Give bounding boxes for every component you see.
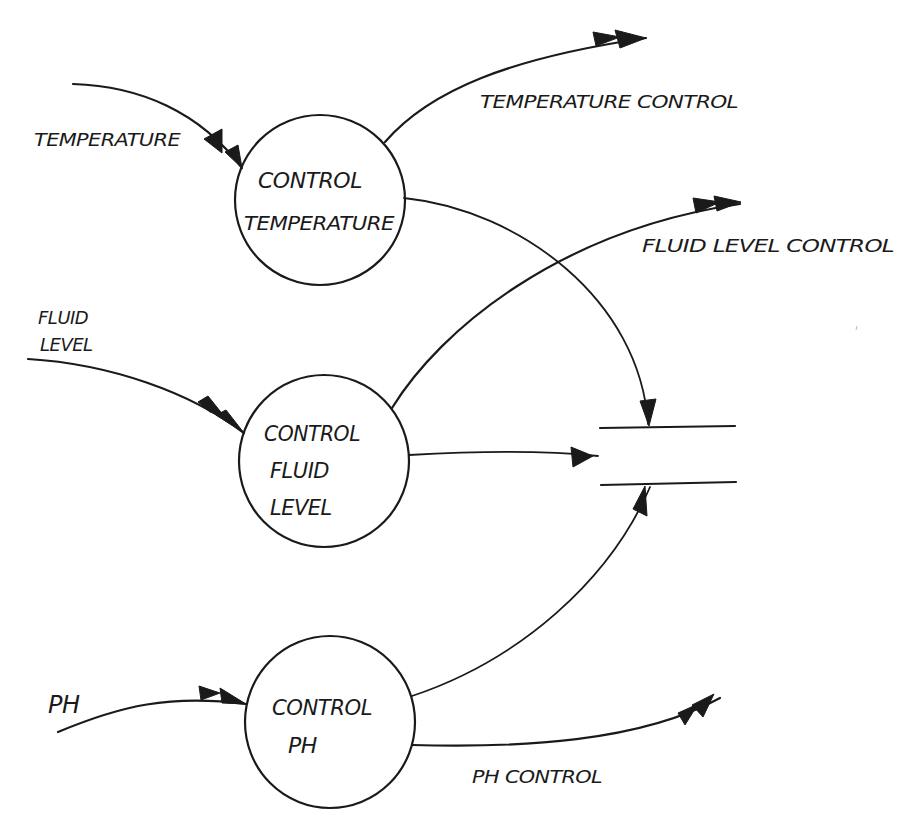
arrowhead-icon [615, 30, 646, 48]
output-flow-ph-control: PH CONTROL [412, 694, 720, 787]
process-label-line: FLUID [270, 459, 329, 483]
process-control-temperature: CONTROL TEMPERATURE [235, 115, 405, 285]
arrowhead-icon [204, 129, 222, 153]
arrowhead-icon [216, 410, 244, 433]
process-circle [245, 636, 415, 808]
output-flow-temperature-control: TEMPERATURE CONTROL [385, 30, 738, 142]
flow-label: LEVEL [40, 334, 93, 355]
process-circle [235, 115, 405, 285]
input-flow-ph: PH [48, 686, 246, 732]
arrowhead-icon [714, 196, 741, 211]
arrowhead-icon [220, 688, 246, 704]
flow-label: TEMPERATURE CONTROL [480, 92, 738, 112]
flow-line [73, 84, 242, 168]
paper-speck [856, 326, 857, 330]
flow-label: FLUID LEVEL CONTROL [642, 236, 894, 256]
process-label-line: LEVEL [270, 496, 332, 520]
flow-line [409, 452, 598, 456]
flow-label: PH CONTROL [472, 767, 602, 787]
process-label-line: CONTROL [258, 168, 362, 193]
process-label-line: CONTROL [264, 422, 360, 446]
flow-label: FLUID [38, 307, 88, 328]
flow-line [385, 38, 646, 142]
data-store [600, 426, 736, 485]
arrowhead-icon [633, 486, 647, 516]
data-flow-diagram: CONTROL TEMPERATURE CONTROL FLUID LEVEL … [0, 0, 921, 828]
flow-line [28, 359, 244, 433]
process-label-line: PH [288, 733, 317, 758]
process-control-ph: CONTROL PH [245, 636, 415, 808]
store-flow-ph [412, 486, 650, 696]
process-label-line: TEMPERATURE [244, 211, 395, 235]
data-store-top-line [600, 426, 735, 428]
arrowhead-icon [692, 694, 714, 717]
flow-line [392, 204, 740, 408]
input-flow-temperature: TEMPERATURE [34, 84, 242, 168]
process-control-fluid-level: CONTROL FLUID LEVEL [239, 375, 409, 547]
flow-line [412, 487, 650, 696]
flow-line [58, 700, 246, 732]
store-flow-fluid-level [409, 447, 598, 467]
arrowhead-icon [225, 145, 242, 168]
output-flow-fluid-level-control: FLUID LEVEL CONTROL [392, 196, 894, 408]
flow-label: PH [48, 691, 80, 719]
store-flow-temperature [404, 198, 656, 426]
data-store-bottom-line [601, 482, 736, 485]
arrowhead-icon [640, 399, 656, 426]
arrowhead-icon [199, 686, 220, 700]
flow-label: TEMPERATURE [34, 130, 181, 150]
process-label-line: CONTROL [272, 696, 372, 720]
input-flow-fluid-level: FLUID LEVEL [28, 307, 244, 433]
flow-line [412, 698, 720, 746]
flow-line [404, 198, 648, 424]
arrowhead-icon [571, 447, 593, 467]
